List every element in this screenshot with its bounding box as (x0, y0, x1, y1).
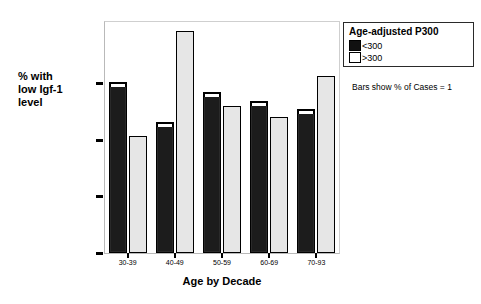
bar-chart-figure: % with low Igf-1 level 0102030 30-3940-4… (0, 0, 481, 304)
x-axis-label-70-93: 70-93 (296, 259, 336, 266)
x-axis-title: Age by Decade (104, 275, 340, 287)
bar-50-59-gt300 (223, 106, 241, 253)
bar-30-39-lt300 (109, 82, 127, 253)
bar-60-69-lt300 (250, 101, 268, 253)
bar-60-69-gt300 (270, 117, 288, 253)
legend-title: Age-adjusted P300 (349, 26, 438, 37)
bar-70-93-gt300 (317, 76, 335, 253)
bar-highlight-cap (204, 93, 220, 97)
x-tick-mark (174, 253, 176, 258)
bar-40-49-lt300 (156, 122, 174, 253)
legend-swatch-dark-icon (349, 40, 361, 51)
x-tick-mark (127, 253, 129, 258)
bar-highlight-cap (157, 123, 173, 127)
bar-highlight-cap (298, 110, 314, 114)
bar-highlight-cap (251, 102, 267, 106)
bar-70-93-lt300 (297, 109, 315, 253)
bar-highlight-cap (110, 83, 126, 87)
bar-40-49-gt300 (176, 31, 194, 253)
x-tick-mark (315, 253, 317, 258)
chart-caption: Bars show % of Cases = 1 (352, 82, 452, 92)
x-axis-label-50-59: 50-59 (202, 259, 242, 266)
x-axis-label-30-39: 30-39 (108, 259, 148, 266)
bar-30-39-gt300 (129, 136, 147, 253)
x-axis-label-60-69: 60-69 (249, 259, 289, 266)
legend-label-lt300: <300 (362, 41, 382, 51)
legend-label-gt300: >300 (362, 53, 382, 63)
x-tick-mark (268, 253, 270, 258)
bar-50-59-lt300 (203, 92, 221, 253)
x-axis-label-40-49: 40-49 (155, 259, 195, 266)
legend-swatch-light-icon (349, 52, 361, 63)
x-tick-mark (221, 253, 223, 258)
legend: Age-adjusted P300 <300 >300 (343, 22, 474, 67)
